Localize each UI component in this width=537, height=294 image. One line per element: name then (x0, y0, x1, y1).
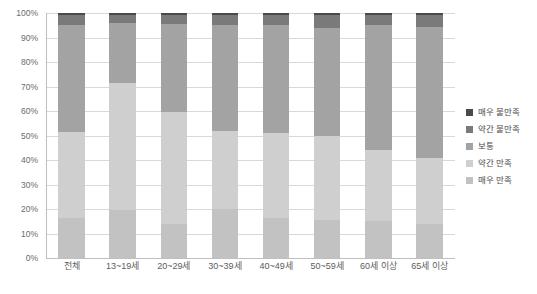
bar-group[interactable] (263, 13, 290, 258)
bar-segment[interactable] (58, 218, 85, 258)
legend-item[interactable]: 매우 불만족 (466, 104, 536, 121)
bar-group[interactable] (161, 13, 188, 258)
bar-segment[interactable] (212, 15, 239, 25)
y-axis-tick-label: 80% (21, 58, 38, 67)
bar-series-container (46, 13, 455, 258)
legend-label: 약간 만족 (478, 159, 512, 168)
legend-label: 보통 (478, 142, 494, 151)
bar-segment[interactable] (416, 224, 443, 258)
bar-segment[interactable] (365, 25, 392, 150)
bar-segment[interactable] (212, 209, 239, 258)
bar-stack (365, 13, 392, 258)
y-axis-tick-label: 30% (21, 180, 38, 189)
bar-segment[interactable] (314, 136, 341, 221)
y-axis-tick-label: 40% (21, 156, 38, 165)
legend-item[interactable]: 약간 만족 (466, 155, 536, 172)
bar-segment[interactable] (109, 15, 136, 22)
legend-item[interactable]: 약간 불만족 (466, 121, 536, 138)
legend-color-swatch (466, 126, 473, 133)
legend-color-swatch (466, 143, 473, 150)
bar-segment[interactable] (58, 132, 85, 218)
legend-label: 약간 불만족 (478, 125, 520, 134)
bar-group[interactable] (109, 13, 136, 258)
bar-segment[interactable] (161, 224, 188, 258)
bar-segment[interactable] (365, 150, 392, 221)
x-axis-labels: 전체13~19세20~29세30~39세40~49세50~59세60세 이상65… (46, 262, 455, 282)
bar-group[interactable] (365, 13, 392, 258)
bar-segment[interactable] (365, 221, 392, 258)
bar-segment[interactable] (416, 15, 443, 26)
x-axis-tick-label: 20~29세 (157, 262, 190, 272)
bar-stack (58, 13, 85, 258)
x-axis-tick-label: 50~59세 (311, 262, 344, 272)
bar-stack (416, 13, 443, 258)
bar-segment[interactable] (416, 158, 443, 224)
bar-segment[interactable] (58, 15, 85, 25)
bar-segment[interactable] (263, 133, 290, 218)
bar-segment[interactable] (314, 15, 341, 27)
bar-group[interactable] (314, 13, 341, 258)
x-axis-tick-label: 30~39세 (208, 262, 241, 272)
chart-legend: 매우 불만족약간 불만족보통약간 만족매우 만족 (466, 104, 536, 189)
bar-stack (109, 13, 136, 258)
stacked-bar-chart: 0%10%20%30%40%50%60%70%80%90%100% 전체13~1… (0, 0, 537, 294)
bar-stack (263, 13, 290, 258)
bar-stack (161, 13, 188, 258)
legend-label: 매우 불만족 (478, 108, 520, 117)
bar-segment[interactable] (314, 28, 341, 136)
x-axis-tick-label: 40~49세 (259, 262, 292, 272)
bar-segment[interactable] (109, 23, 136, 83)
y-axis-tick-label: 100% (16, 9, 38, 18)
bar-segment[interactable] (263, 25, 290, 133)
y-axis-tick-label: 10% (21, 229, 38, 238)
y-axis-labels: 0%10%20%30%40%50%60%70%80%90%100% (0, 0, 42, 294)
bar-segment[interactable] (212, 131, 239, 209)
bar-segment[interactable] (416, 27, 443, 158)
bar-segment[interactable] (263, 15, 290, 25)
x-axis-tick-label: 60세 이상 (360, 262, 397, 272)
bar-segment[interactable] (263, 218, 290, 258)
legend-color-swatch (466, 160, 473, 167)
legend-color-swatch (466, 109, 473, 116)
y-axis-tick-label: 0% (26, 254, 38, 263)
bar-group[interactable] (212, 13, 239, 258)
y-axis-tick-label: 50% (21, 131, 38, 140)
y-axis-tick-label: 20% (21, 205, 38, 214)
legend-color-swatch (466, 177, 473, 184)
legend-item[interactable]: 보통 (466, 138, 536, 155)
y-axis-tick-label: 70% (21, 82, 38, 91)
y-axis-tick-label: 60% (21, 107, 38, 116)
legend-label: 매우 만족 (478, 176, 512, 185)
bar-segment[interactable] (161, 15, 188, 24)
x-axis-tick-label: 13~19세 (106, 262, 139, 272)
x-axis-tick-label: 전체 (64, 262, 80, 272)
bar-segment[interactable] (365, 15, 392, 25)
bar-segment[interactable] (212, 25, 239, 130)
bar-stack (314, 13, 341, 258)
bar-group[interactable] (58, 13, 85, 258)
bar-segment[interactable] (161, 24, 188, 112)
bar-segment[interactable] (58, 25, 85, 132)
bar-segment[interactable] (314, 220, 341, 258)
bar-segment[interactable] (109, 83, 136, 210)
grid-line (46, 258, 455, 259)
bar-segment[interactable] (161, 112, 188, 223)
legend-item[interactable]: 매우 만족 (466, 172, 536, 189)
x-axis-tick-label: 65세 이상 (411, 262, 448, 272)
bar-group[interactable] (416, 13, 443, 258)
y-axis-tick-label: 90% (21, 33, 38, 42)
bar-stack (212, 13, 239, 258)
bar-segment[interactable] (109, 210, 136, 258)
